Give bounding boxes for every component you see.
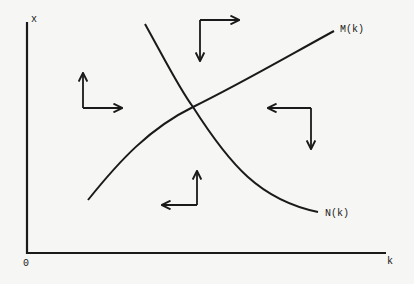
phase-diagram: x 0 k M(k) N(k) <box>0 0 414 284</box>
curve-m-label: M(k) <box>340 25 364 35</box>
diagram-canvas <box>0 0 414 284</box>
arrow-pair-left <box>83 74 121 108</box>
curve-m <box>88 31 334 200</box>
curve-n <box>145 24 318 212</box>
curve-n-label: N(k) <box>325 209 349 219</box>
origin-label: 0 <box>23 259 29 269</box>
x-axis-label: k <box>387 257 393 267</box>
y-axis-label: x <box>31 15 37 25</box>
arrow-pair-right <box>269 108 311 148</box>
arrow-pair-bottom <box>163 172 197 205</box>
arrow-pair-top <box>200 20 238 60</box>
